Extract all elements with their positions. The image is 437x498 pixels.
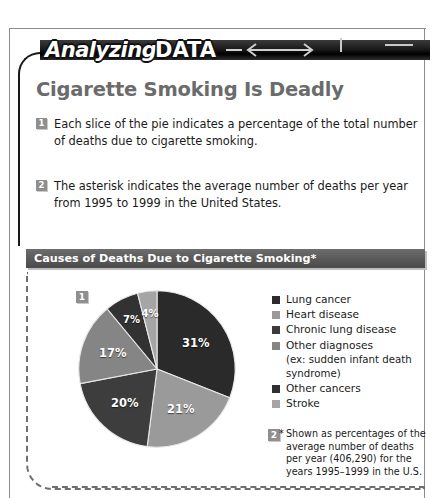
- legend-item: Heart disease: [272, 307, 432, 322]
- legend-sublabel: (ex: sudden infant death syndrome): [286, 353, 432, 381]
- pie-label-heart-disease: 21%: [167, 402, 195, 416]
- chart-legend: Lung cancerHeart diseaseChronic lung dis…: [272, 292, 432, 412]
- legend-item: Lung cancer: [272, 292, 432, 307]
- legend-swatch: [272, 400, 280, 408]
- legend-label: Other cancers: [286, 382, 361, 394]
- pie-chart: 31% 21% 20% 17% 7% 4%: [78, 290, 236, 448]
- legend-item: Other diagnoses(ex: sudden infant death …: [272, 338, 432, 382]
- pie-label-chronic-lung-disease: 20%: [111, 396, 139, 410]
- legend-item: Other cancers: [272, 381, 432, 396]
- figure-dashed-bottom: [52, 486, 425, 488]
- legend-swatch: [272, 342, 280, 350]
- banner-word-data: DATA: [155, 36, 216, 64]
- legend-item: Stroke: [272, 396, 432, 411]
- legend-swatch: [272, 311, 280, 319]
- legend-item: Chronic lung disease: [272, 322, 432, 337]
- legend-swatch: [272, 296, 280, 304]
- page-root: Analyzing DATA Cigarette Smoking Is Dead…: [0, 0, 437, 498]
- note-1-badge: 1: [36, 118, 47, 129]
- footnote-asterisk: *: [279, 428, 284, 441]
- footnote-text: Shown as percentages of the average numb…: [286, 428, 426, 477]
- legend-swatch: [272, 326, 280, 334]
- legend-label: Stroke: [286, 397, 320, 409]
- banner-dash: [385, 44, 413, 46]
- legend-label: Chronic lung disease: [286, 323, 396, 335]
- callout-left-rule: [18, 88, 20, 246]
- note-2-text: The asterisk indicates the average numbe…: [36, 178, 428, 211]
- note-1: 1 Each slice of the pie indicates a perc…: [36, 116, 428, 149]
- figure-footnote: *Shown as percentages of the average num…: [286, 428, 428, 478]
- banner-tick: [340, 38, 342, 52]
- banner-word-analyzing: Analyzing: [45, 36, 156, 64]
- legend-swatch: [272, 385, 280, 393]
- note-2: 2 The asterisk indicates the average num…: [36, 178, 428, 211]
- note-1-text: Each slice of the pie indicates a percen…: [36, 116, 428, 149]
- note-2-badge: 2: [36, 180, 47, 191]
- pie-label-lung-cancer: 31%: [182, 336, 210, 350]
- double-arrow-icon: [226, 42, 346, 58]
- pie-label-other-diagnoses: 17%: [99, 346, 127, 360]
- page-title: Cigarette Smoking Is Deadly: [36, 78, 426, 101]
- figure-title: Causes of Deaths Due to Cigarette Smokin…: [26, 249, 425, 268]
- pie-label-stroke: 4%: [141, 308, 158, 319]
- legend-label: Other diagnoses: [286, 339, 373, 351]
- analyzing-data-banner: Analyzing DATA: [40, 36, 430, 64]
- legend-label: Heart disease: [286, 308, 359, 320]
- legend-label: Lung cancer: [286, 293, 351, 305]
- pie-label-other-cancers: 7%: [123, 313, 140, 324]
